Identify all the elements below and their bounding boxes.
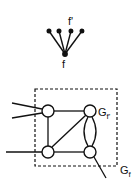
outer-graph-label: Gf [120,164,132,179]
outer-label-main: G [120,164,129,176]
diagram-canvas: f' f Gf' Gf [0,0,138,189]
edge-diagonal [52,115,86,147]
node-top-left [42,105,54,117]
outer-label-sub: f [129,170,132,179]
external-edge [94,157,106,178]
external-edge [12,103,42,109]
fan-diagram [47,29,84,56]
edge-right-curved [92,117,96,146]
node-bottom-left [42,146,54,158]
inner-label-main: G [98,106,107,118]
fan-leaf-dot [69,29,73,33]
fan-leaf-dot [47,29,51,33]
fan-bottom-label: f [62,58,66,70]
fan-leaf-dot [57,29,61,33]
fan-top-label: f' [68,15,73,27]
external-edge [12,113,42,118]
node-bottom-right [84,146,96,158]
inner-graph-label: Gf' [98,106,111,121]
edge-right-curved [84,117,88,146]
node-top-right [84,105,96,117]
fan-leaf-dot [80,29,84,33]
inner-label-sub: f' [107,112,111,121]
fan-apex-dot [63,52,67,56]
